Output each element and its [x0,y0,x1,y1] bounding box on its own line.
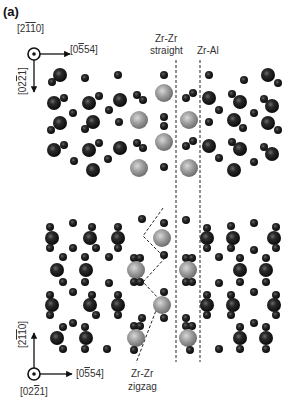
upper-structure [47,68,282,177]
lower-structure [45,215,281,354]
bottom-axes-icon [28,333,72,380]
crystal-structure-diagram [0,0,298,413]
